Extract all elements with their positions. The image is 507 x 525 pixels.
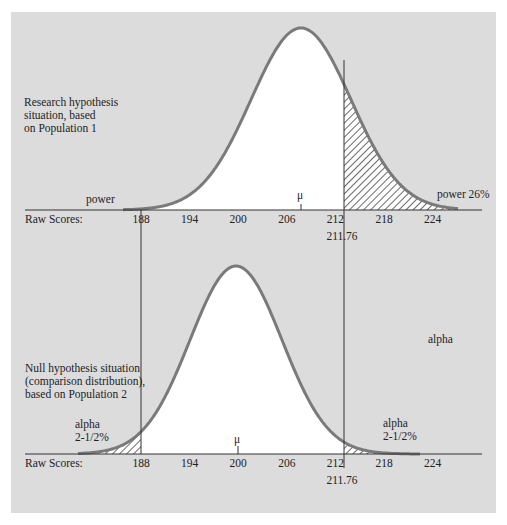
top-cutoff-label: 211.76 (326, 230, 357, 242)
tick-label: 188 (132, 457, 149, 469)
top-axis-label: Raw Scores: (25, 213, 83, 226)
bottom-mu-label: μ (234, 433, 240, 446)
tick-label: 224 (424, 457, 441, 469)
top-description: Research hypothesis situation, based on … (24, 96, 118, 135)
tick-label: 212 (327, 213, 344, 225)
top-mu-label: μ (297, 189, 303, 202)
bottom-description: Null hypothesis situation (comparison di… (25, 362, 145, 401)
top-right-tail-label: power 26% (437, 188, 490, 201)
tick-label: 218 (375, 213, 392, 225)
tick-label: 200 (230, 213, 247, 225)
bottom-left-tail-label: alpha 2-1/2% (75, 418, 109, 444)
bottom-axis-label: Raw Scores: (25, 457, 83, 470)
bottom-right-tail-label: alpha 2-1/2% (383, 417, 417, 443)
tick-label: 194 (181, 457, 198, 469)
bottom-cutoff-label: 211.76 (326, 474, 357, 486)
tick-label: 224 (424, 213, 441, 225)
bottom-floating-alpha-label: alpha (428, 333, 453, 346)
tick-label: 194 (181, 213, 198, 225)
research-distribution (123, 28, 458, 210)
tick-label: 200 (230, 457, 247, 469)
distribution-diagram (0, 0, 507, 525)
null-distribution (78, 266, 420, 454)
tick-label: 218 (375, 457, 392, 469)
tick-label: 212 (327, 457, 344, 469)
top-left-tail-label: power (86, 193, 115, 206)
tick-label: 188 (132, 213, 149, 225)
tick-label: 206 (278, 457, 295, 469)
tick-label: 206 (278, 213, 295, 225)
